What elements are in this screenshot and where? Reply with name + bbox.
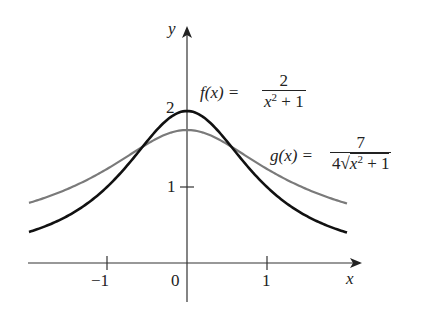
y-tick-label-1: 1 bbox=[167, 178, 176, 195]
y-axis-label: y bbox=[168, 20, 176, 37]
x-tick-label-neg1: −1 bbox=[91, 272, 109, 289]
sqrt-icon: √ bbox=[341, 154, 350, 173]
x-axis-label: x bbox=[346, 270, 354, 287]
f-numerator: 2 bbox=[278, 72, 291, 90]
g-curve bbox=[29, 130, 347, 204]
g-formula-lhs: g(x) = bbox=[270, 147, 313, 164]
chart-figure: y x −1 0 1 1 2 f(x) = 2 x2 + 1 g(x) = 7 … bbox=[0, 0, 436, 314]
f-formula-fraction: 2 x2 + 1 bbox=[262, 72, 306, 111]
y-tick-label-2: 2 bbox=[166, 99, 175, 116]
x-tick-label-0: 0 bbox=[171, 272, 180, 289]
f-formula-lhs: f(x) = bbox=[200, 84, 239, 101]
g-numerator: 7 bbox=[354, 134, 367, 152]
x-tick-label-1: 1 bbox=[262, 272, 271, 289]
g-denominator: 4√x2 + 1 bbox=[330, 152, 391, 173]
f-denominator: x2 + 1 bbox=[262, 90, 306, 111]
g-formula-fraction: 7 4√x2 + 1 bbox=[330, 134, 391, 173]
